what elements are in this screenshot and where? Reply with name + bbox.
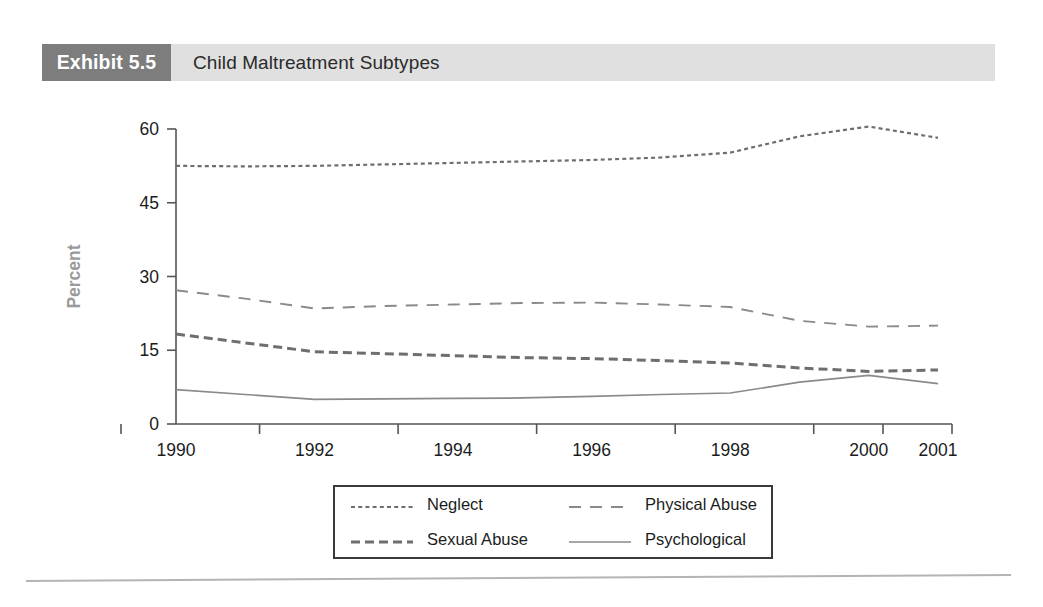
x-tick-label: 1990 (157, 440, 196, 460)
y-tick-label: 0 (149, 414, 159, 434)
y-tick-label: 30 (140, 267, 160, 287)
x-tick-label: 1992 (295, 440, 334, 460)
series-line-psychological (176, 375, 938, 399)
chart-legend: Neglect Physical Abuse Sexual Abuse Psyc… (333, 485, 773, 559)
x-tick-label: 1998 (711, 440, 750, 460)
exhibit-number-tag: Exhibit 5.5 (42, 44, 171, 81)
legend-label-physical-abuse: Physical Abuse (645, 495, 757, 514)
page-divider-rule (26, 574, 1011, 582)
y-tick-label: 15 (140, 340, 159, 360)
series-lines (176, 127, 938, 400)
legend-label-neglect: Neglect (427, 495, 483, 514)
x-tick-label: 1994 (434, 440, 473, 460)
legend-label-psychological: Psychological (645, 530, 746, 549)
exhibit-header: Exhibit 5.5 Child Maltreatment Subtypes (42, 44, 995, 81)
y-axis-title: Percent (64, 244, 84, 308)
legend-item-psychological: Psychological (553, 530, 771, 549)
legend-swatch-neglect (351, 499, 413, 511)
x-axis: 1990199219941996199820002001 (121, 424, 957, 460)
series-line-sexual-abuse (176, 334, 938, 371)
series-line-physical-abuse (176, 290, 938, 326)
x-tick-label: 2001 (919, 440, 958, 460)
series-line-neglect (176, 127, 938, 167)
y-tick-label: 45 (140, 193, 159, 213)
legend-swatch-sexual-abuse (351, 534, 413, 546)
legend-item-physical-abuse: Physical Abuse (553, 495, 771, 514)
legend-swatch-physical-abuse (569, 499, 631, 511)
x-tick-label: 1996 (572, 440, 611, 460)
legend-item-sexual-abuse: Sexual Abuse (335, 530, 553, 549)
line-chart: 015304560 1990199219941996199820002001 P… (0, 95, 1043, 475)
legend-label-sexual-abuse: Sexual Abuse (427, 530, 528, 549)
legend-swatch-psychological (569, 534, 631, 546)
y-tick-label: 60 (140, 119, 160, 139)
x-tick-label: 2000 (849, 440, 888, 460)
y-axis: 015304560 (140, 119, 176, 434)
legend-item-neglect: Neglect (335, 495, 553, 514)
exhibit-title: Child Maltreatment Subtypes (171, 44, 995, 81)
chart-container: 015304560 1990199219941996199820002001 P… (0, 95, 1043, 475)
